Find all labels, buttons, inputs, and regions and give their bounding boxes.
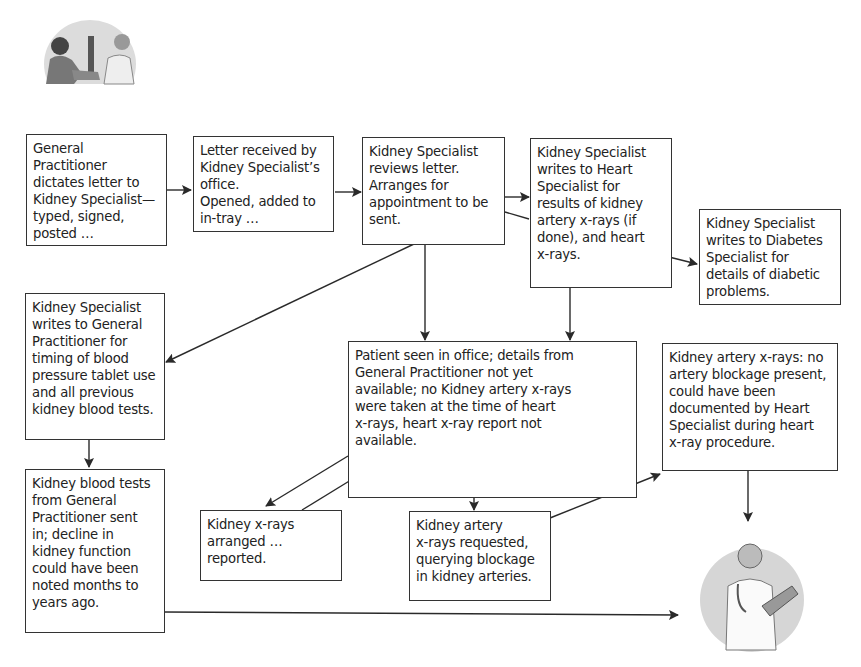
box-artery-xrays-result: Kidney artery x-rays: no artery blockage… [662,343,838,471]
box-blood-tests: Kidney blood tests from General Practiti… [25,469,165,633]
box-patient-seen: Patient seen in office; details from Gen… [348,341,637,498]
arrow-blood-to-specialist [164,612,678,615]
box-ks-reviews: Kidney Specialist reviews letter. Arrang… [362,137,505,245]
box-ks-writes-gp: Kidney Specialist writes to General Prac… [25,293,165,440]
box-kidney-xrays: Kidney x-rays arranged … reported. [200,510,342,581]
box-ks-writes-diabetes: Kidney Specialist writes to Diabetes Spe… [699,209,841,305]
box-letter-received: Letter received by Kidney Specialist’s o… [193,136,334,232]
arrow-heart-to-diabetes [669,257,697,264]
box-artery-xrays-requested: Kidney artery x-rays requested, querying… [409,511,551,601]
arrow-patient-to-kidney-xrays [266,456,348,506]
box-ks-writes-heart: Kidney Specialist writes to Heart Specia… [530,138,672,288]
box-gp-dictates: General Practitioner dictates letter to … [26,134,167,246]
